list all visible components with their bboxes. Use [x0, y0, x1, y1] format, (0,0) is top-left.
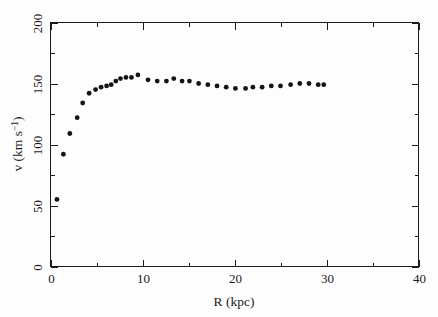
- data-point: [55, 197, 60, 202]
- y-axis-tick-labels: 050100150200: [30, 14, 45, 271]
- data-point: [171, 76, 176, 81]
- data-points-layer: [55, 73, 327, 202]
- y-axis-title: v (km s−1): [10, 116, 25, 171]
- data-point: [205, 82, 210, 87]
- y-tick-label: 200: [30, 14, 45, 34]
- x-axis-minor-ticks: [98, 23, 374, 267]
- data-point: [87, 91, 92, 96]
- x-tick-label: 20: [229, 271, 242, 286]
- x-axis-title: R (kpc): [214, 294, 255, 309]
- data-point: [243, 86, 248, 91]
- data-point: [251, 85, 256, 90]
- data-point: [297, 81, 302, 86]
- y-tick-label: 50: [30, 200, 45, 213]
- y-tick-label: 100: [30, 136, 45, 156]
- x-tick-label: 10: [137, 271, 150, 286]
- data-point: [224, 85, 229, 90]
- x-axis-tick-labels: 010203040: [48, 271, 426, 286]
- y-tick-label: 150: [30, 75, 45, 95]
- data-point: [136, 73, 141, 78]
- chart-canvas: 010203040 050100150200 R (kpc) v (km s−1…: [0, 0, 438, 317]
- data-point: [180, 79, 185, 84]
- data-point: [278, 84, 283, 89]
- data-point: [118, 76, 123, 81]
- data-point: [104, 84, 109, 89]
- data-point: [215, 84, 220, 89]
- data-point: [321, 82, 326, 87]
- data-point: [269, 84, 274, 89]
- x-tick-label: 30: [321, 271, 334, 286]
- data-point: [124, 75, 129, 80]
- data-point: [307, 81, 312, 86]
- data-point: [99, 85, 104, 90]
- y-axis-major-ticks: [51, 24, 419, 268]
- data-point: [93, 87, 98, 92]
- data-point: [164, 79, 169, 84]
- data-point: [129, 75, 134, 80]
- data-point: [80, 101, 85, 106]
- rotation-curve-figure: 010203040 050100150200 R (kpc) v (km s−1…: [0, 0, 438, 317]
- plot-frame: [51, 23, 419, 267]
- data-point: [67, 131, 72, 136]
- data-point: [260, 85, 265, 90]
- y-axis-title-group: v (km s−1): [10, 116, 25, 171]
- y-axis-minor-ticks: [51, 54, 419, 237]
- x-tick-label: 0: [48, 271, 55, 286]
- x-tick-label: 40: [413, 271, 426, 286]
- data-point: [196, 81, 201, 86]
- data-point: [316, 82, 321, 87]
- data-point: [288, 82, 293, 87]
- y-tick-label: 0: [30, 264, 45, 271]
- data-point: [75, 115, 80, 120]
- data-point: [146, 77, 151, 82]
- data-point: [61, 152, 66, 157]
- x-axis-major-ticks: [52, 23, 420, 267]
- data-point: [187, 79, 192, 84]
- data-point: [113, 79, 118, 84]
- data-point: [109, 82, 114, 87]
- data-point: [233, 86, 238, 91]
- data-point: [155, 79, 160, 84]
